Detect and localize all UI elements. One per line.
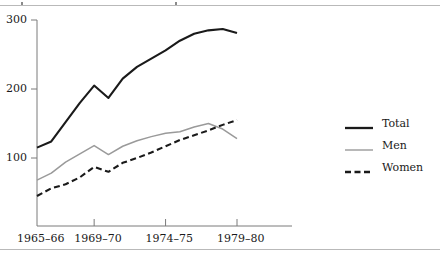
legend-label: Women [382,162,423,173]
series-line-women [37,120,237,196]
y-tick-label: 200 [0,83,27,94]
legend-label: Total [382,118,410,129]
y-axis-ticks [31,20,37,158]
legend-label: Men [382,140,407,151]
y-tick-label: 100 [0,152,27,163]
y-tick-label: 300 [0,14,27,25]
x-tick-label: 1979–80 [217,233,265,244]
x-tick-label: 1965–66 [17,233,65,244]
data-series-group [37,29,237,196]
x-tick-label: 1969–70 [74,233,122,244]
chart-legend: TotalMenWomen [345,112,437,178]
series-line-total [37,29,237,148]
x-tick-label: 1974–75 [146,233,194,244]
legend-swatch-women-icon [345,162,373,172]
legend-swatch-men-icon [345,140,373,150]
x-axis-ticks [94,219,237,226]
legend-item-women[interactable]: Women [345,156,437,178]
figure-container: 100200300 1965–661969–701974–751979–80 T… [0,0,440,256]
legend-item-men[interactable]: Men [345,134,437,156]
legend-item-total[interactable]: Total [345,112,437,134]
legend-swatch-total-icon [345,118,373,128]
